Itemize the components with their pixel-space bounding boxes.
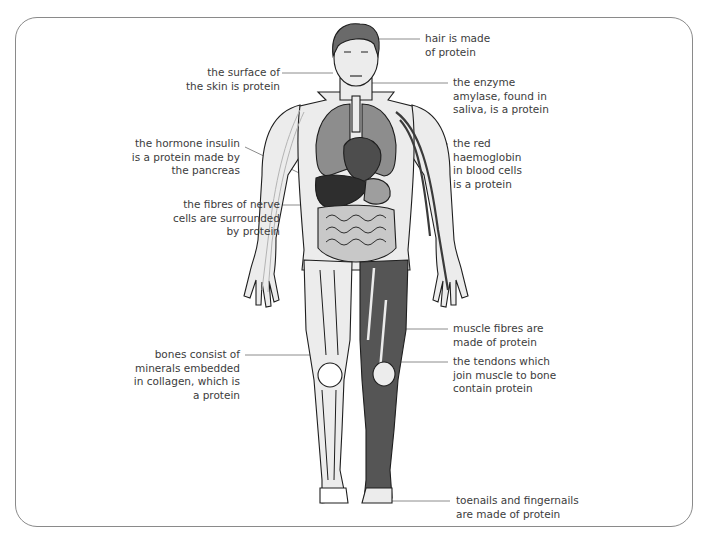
label-amylase: the enzyme amylase, found in saliva, is … bbox=[453, 76, 549, 117]
label-muscle: muscle fibres are made of protein bbox=[453, 322, 543, 349]
label-haemoglobin: the red haemoglobin in blood cells is a … bbox=[453, 137, 522, 191]
human-body-figure bbox=[0, 0, 708, 537]
trachea bbox=[352, 96, 360, 132]
right-foot bbox=[320, 488, 348, 503]
left-arm bbox=[408, 105, 468, 307]
kneecap-right bbox=[318, 363, 342, 387]
label-nerve: the fibres of nerve cells are surrounded… bbox=[173, 198, 280, 239]
intestines bbox=[318, 205, 396, 262]
body-outline bbox=[244, 24, 468, 503]
left-foot bbox=[362, 488, 392, 503]
label-hair: hair is made of protein bbox=[425, 32, 490, 59]
label-bones: bones consist of minerals embedded in co… bbox=[134, 348, 240, 402]
kneecap-left bbox=[373, 362, 395, 386]
label-insulin: the hormone insulin is a protein made by… bbox=[132, 137, 240, 178]
label-tendons: the tendons which join muscle to bone co… bbox=[453, 355, 556, 396]
label-skin: the surface of the skin is protein bbox=[186, 66, 280, 93]
label-nails: toenails and fingernails are made of pro… bbox=[456, 494, 579, 521]
